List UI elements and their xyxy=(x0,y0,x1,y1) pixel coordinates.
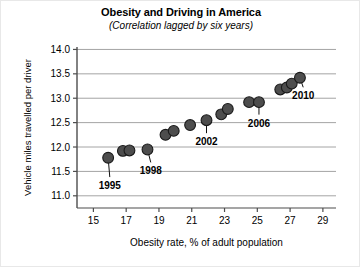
y-tick-label: 11.0 xyxy=(51,190,70,201)
x-tick-label: 29 xyxy=(317,215,329,226)
year-annotation-label: 1998 xyxy=(140,165,163,176)
x-tick-label: 27 xyxy=(285,215,297,226)
data-point xyxy=(254,97,265,108)
y-axis-title: Vehicle miles travelled per driver xyxy=(22,59,33,196)
data-point xyxy=(168,126,179,137)
y-tick-label: 13.0 xyxy=(51,93,71,104)
y-axis-ticks: 11.011.512.012.513.013.514.0 xyxy=(51,44,77,201)
data-point xyxy=(185,120,196,131)
data-point xyxy=(142,144,153,155)
figure-container: Obesity and Driving in America (Correlat… xyxy=(0,0,360,267)
y-tick-label: 11.5 xyxy=(51,166,70,177)
year-annotation-label: 2010 xyxy=(292,90,315,101)
data-points-group xyxy=(103,72,306,163)
annotation-labels-group: 19951998200220062010 xyxy=(99,90,315,191)
data-point xyxy=(295,72,306,83)
data-point xyxy=(124,145,135,156)
x-axis-ticks: 1517192123252729 xyxy=(88,208,329,226)
x-tick-label: 23 xyxy=(219,215,231,226)
y-tick-label: 12.5 xyxy=(51,117,71,128)
x-tick-label: 19 xyxy=(153,215,165,226)
data-point xyxy=(222,104,233,115)
year-annotation-label: 1995 xyxy=(99,180,122,191)
year-annotation-label: 2006 xyxy=(248,118,271,129)
year-annotation-label: 2002 xyxy=(195,136,218,147)
x-tick-label: 25 xyxy=(252,215,264,226)
annotation-leader-lines xyxy=(108,78,303,177)
x-axis-title: Obesity rate, % of adult population xyxy=(130,237,283,248)
y-tick-label: 13.5 xyxy=(51,68,71,79)
x-tick-label: 21 xyxy=(186,215,198,226)
data-point xyxy=(103,152,114,163)
scatter-plot: 11.011.512.012.513.013.514.0 15171921232… xyxy=(1,1,360,267)
x-tick-label: 17 xyxy=(121,215,133,226)
data-point xyxy=(201,115,212,126)
y-tick-label: 14.0 xyxy=(51,44,71,55)
data-point xyxy=(244,97,255,108)
x-tick-label: 15 xyxy=(88,215,100,226)
y-tick-label: 12.0 xyxy=(51,142,71,153)
